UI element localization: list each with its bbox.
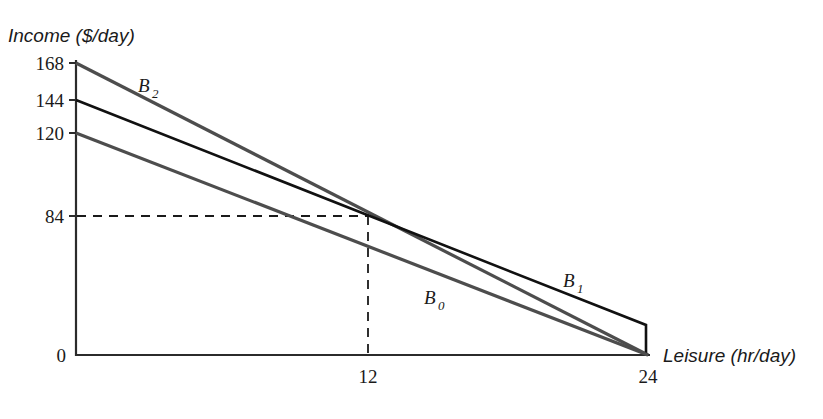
curve-label-b1-sub: 1 bbox=[577, 281, 584, 296]
curve-label-b1-main: B bbox=[563, 270, 575, 291]
y-tick-label-120: 120 bbox=[36, 123, 65, 144]
y-axis-title: Income ($/day) bbox=[8, 25, 135, 46]
x-axis-title: Leisure (hr/day) bbox=[663, 345, 796, 366]
y-tick-label-0: 0 bbox=[57, 345, 67, 366]
y-tick-label-84: 84 bbox=[45, 206, 65, 227]
curve-label-b2-main: B bbox=[138, 75, 150, 96]
chart-canvas: 168 144 120 84 0 12 24 Income ($/day) Le… bbox=[0, 0, 823, 419]
budget-line-b2 bbox=[76, 63, 648, 355]
y-tick-label-144: 144 bbox=[36, 90, 65, 111]
intersection-guides bbox=[77, 216, 368, 354]
curve-label-b2-sub: 2 bbox=[152, 86, 159, 101]
y-tick-label-168: 168 bbox=[36, 53, 65, 74]
budget-line-b1 bbox=[76, 100, 646, 355]
curve-label-b0: B 0 bbox=[424, 287, 445, 313]
x-tick-label-24: 24 bbox=[639, 366, 659, 387]
curve-label-b0-main: B bbox=[424, 287, 436, 308]
x-tick-label-12: 12 bbox=[359, 366, 378, 387]
curve-label-b0-sub: 0 bbox=[438, 298, 445, 313]
budget-line-chart: 168 144 120 84 0 12 24 Income ($/day) Le… bbox=[0, 0, 823, 419]
budget-line-b0 bbox=[76, 133, 648, 355]
